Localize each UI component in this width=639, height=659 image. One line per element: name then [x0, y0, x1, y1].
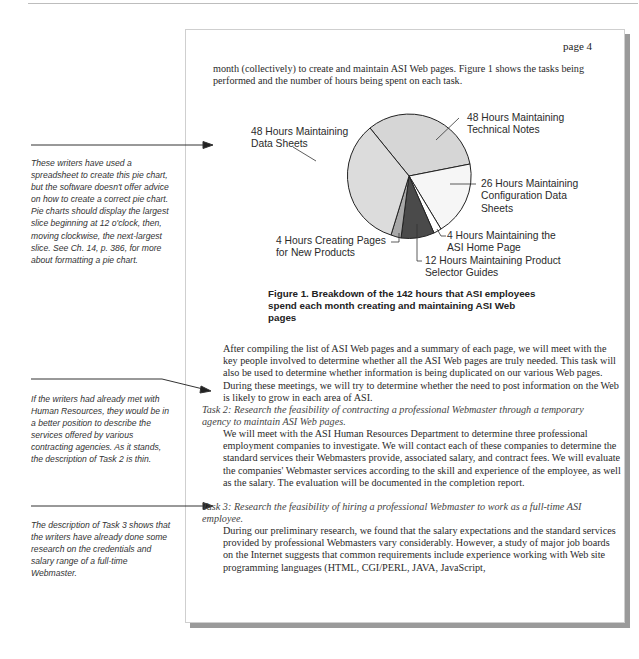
- intro-paragraph: month (collectively) to create and maint…: [213, 63, 611, 87]
- label-asi-home-page: 4 Hours Maintaining the ASI Home Page: [447, 230, 556, 255]
- label-product-selector-guides: 12 Hours Maintaining Product Selector Gu…: [425, 255, 561, 280]
- task3-heading: Task 3: Research the feasibility of hiri…: [202, 501, 612, 525]
- task2-paragraph: We will meet with the ASI Human Resource…: [213, 428, 621, 489]
- task2-heading: Task 2: Research the feasibility of cont…: [202, 404, 612, 428]
- label-technical-notes: 48 Hours Maintaining Technical Notes: [467, 112, 564, 137]
- label-creating-pages: 4 Hours Creating Pages for New Products: [276, 235, 386, 260]
- label-configuration-data-sheets: 26 Hours Maintaining Configuration Data …: [481, 178, 578, 215]
- arrow-note-3: [31, 503, 213, 510]
- label-data-sheets: 48 Hours Maintaining Data Sheets: [251, 126, 348, 151]
- pie-chart: [347, 114, 471, 238]
- margin-note-task2: If the writers had already met with Huma…: [31, 393, 171, 466]
- task1-paragraph: After compiling the list of ASI Web page…: [213, 343, 621, 404]
- figure-caption: Figure 1. Breakdown of the 142 hours tha…: [268, 288, 538, 324]
- task3-paragraph: During our preliminary research, we foun…: [213, 525, 621, 574]
- margin-note-task3: The description of Task 3 shows that the…: [31, 519, 171, 579]
- arrow-note-1: [31, 142, 213, 149]
- margin-note-pie-chart: These writers have used a spreadsheet to…: [31, 157, 171, 266]
- page-number: page 4: [563, 40, 592, 52]
- arrow-note-2: [31, 379, 211, 393]
